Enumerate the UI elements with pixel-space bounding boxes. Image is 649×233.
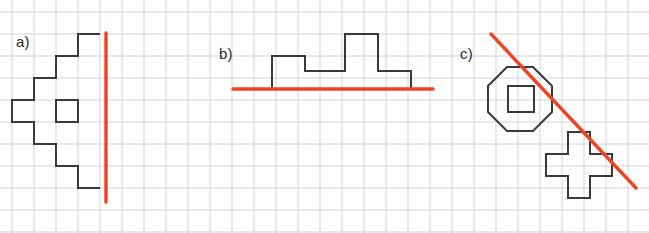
shape-hole-c [508, 86, 534, 112]
figure-drawing-layer [0, 0, 649, 233]
panel-label-c: c) [460, 45, 473, 62]
worksheet-figure: a) b) c) [0, 0, 649, 233]
shape-hole-a [56, 100, 78, 122]
plus-shape-c [546, 132, 612, 198]
shape-outline-b [272, 34, 411, 89]
panel-label-a: a) [16, 33, 30, 50]
panel-label-b: b) [219, 45, 233, 62]
octagon-shape-c [488, 67, 552, 131]
